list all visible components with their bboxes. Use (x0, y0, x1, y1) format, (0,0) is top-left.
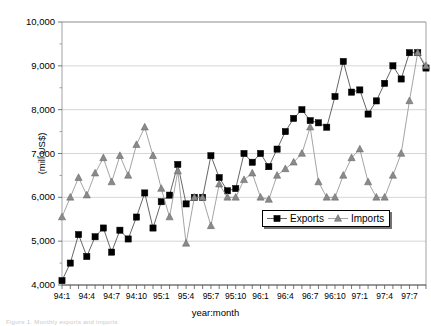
legend-triangle-marker-icon (327, 213, 349, 224)
y-axis-title: (mill US$) (36, 108, 47, 198)
x-axis-tick-label: 97:7 (389, 291, 429, 301)
data-point-marker (266, 164, 272, 170)
data-point-marker (183, 201, 189, 207)
data-point-marker (373, 98, 379, 104)
y-axis-tick-label: 4,000 (0, 280, 55, 290)
data-point-marker (233, 185, 239, 191)
data-point-marker (133, 214, 139, 220)
data-point-marker (398, 76, 404, 82)
data-point-marker (274, 146, 280, 152)
legend-item-imports[interactable]: Imports (327, 213, 384, 224)
chart-container: 4,0005,0006,0007,0008,0009,00010,000(mil… (0, 0, 431, 326)
data-point-marker (365, 111, 371, 117)
y-axis-tick-label: 5,000 (0, 236, 55, 246)
data-point-marker (208, 153, 214, 159)
y-axis-tick-label: 8,000 (0, 105, 55, 115)
data-point-marker (166, 192, 172, 198)
data-point-marker (100, 225, 106, 231)
data-point-marker (84, 253, 90, 259)
chart-legend[interactable]: ExportsImports (262, 210, 390, 227)
figure-caption-partial: Figure 1. Monthly exports and imports (6, 319, 118, 325)
data-point-marker (158, 199, 164, 205)
data-point-marker (257, 150, 263, 156)
data-point-marker (67, 260, 73, 266)
legend-item-label: Exports (290, 213, 324, 224)
legend-square-marker-icon (266, 213, 288, 224)
data-point-marker (249, 159, 255, 165)
data-point-marker (332, 93, 338, 99)
data-point-marker (315, 120, 321, 126)
y-axis-tick-label: 6,000 (0, 192, 55, 202)
data-point-marker (59, 278, 65, 284)
data-point-marker (291, 115, 297, 121)
data-point-marker (117, 227, 123, 233)
data-point-marker (282, 128, 288, 134)
data-point-marker (142, 190, 148, 196)
data-point-marker (340, 58, 346, 64)
data-point-marker (348, 89, 354, 95)
x-axis-title: year:month (0, 307, 431, 318)
data-point-marker (150, 225, 156, 231)
data-point-marker (92, 234, 98, 240)
data-point-marker (324, 124, 330, 130)
data-point-marker (125, 236, 131, 242)
data-point-marker (357, 87, 363, 93)
legend-item-exports[interactable]: Exports (266, 213, 324, 224)
data-point-marker (390, 63, 396, 69)
data-point-marker (75, 231, 81, 237)
y-axis-tick-label: 9,000 (0, 61, 55, 71)
data-point-marker (382, 80, 388, 86)
chart-plot-area (0, 0, 431, 326)
data-point-marker (299, 107, 305, 113)
data-point-marker (241, 150, 247, 156)
y-axis-tick-label: 10,000 (0, 17, 55, 27)
data-point-marker (406, 50, 412, 56)
data-point-marker (109, 249, 115, 255)
legend-item-label: Imports (351, 213, 384, 224)
y-axis-tick-label: 7,000 (0, 149, 55, 159)
